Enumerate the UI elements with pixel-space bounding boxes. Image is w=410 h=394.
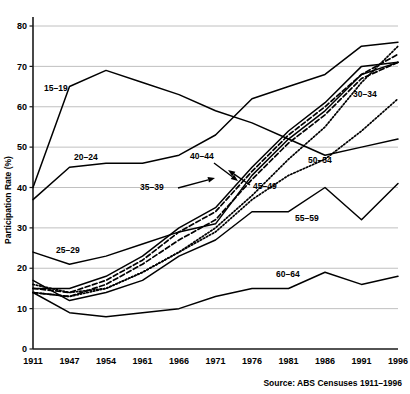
x-tick-label: 1986 bbox=[315, 356, 335, 366]
y-tick-label: 70 bbox=[17, 62, 27, 72]
x-tick-label: 1961 bbox=[132, 356, 152, 366]
series-line-50-54 bbox=[33, 99, 398, 297]
series-line-45-49 bbox=[33, 62, 398, 296]
y-tick-label: 10 bbox=[17, 304, 27, 314]
x-tick-label: 1996 bbox=[388, 356, 408, 366]
series-annotation-label: 30–34 bbox=[353, 89, 377, 99]
y-tick-label: 50 bbox=[17, 142, 27, 152]
series-annotation-label: 15–19 bbox=[44, 83, 68, 93]
series-line-35-39 bbox=[33, 54, 398, 292]
x-tick-label: 1911 bbox=[23, 356, 43, 366]
series-annotation-label: 35–39 bbox=[140, 182, 164, 192]
x-tick-labels-group: 1911194719541961196619711976198119861991… bbox=[23, 356, 408, 366]
y-tick-label: 0 bbox=[22, 344, 27, 354]
series-line-15-19 bbox=[33, 70, 398, 187]
y-tick-label: 60 bbox=[17, 102, 27, 112]
series-lines-group bbox=[33, 42, 398, 317]
source-note: Source: ABS Censuses 1911–1996 bbox=[263, 378, 402, 388]
y-tick-label: 40 bbox=[17, 183, 27, 193]
series-annotation-label: 40–44 bbox=[190, 151, 214, 161]
annotation-leader-line bbox=[178, 180, 208, 188]
y-tick-labels-group: 01020304050607080 bbox=[17, 21, 33, 354]
series-line-20-24 bbox=[33, 42, 398, 199]
series-annotation-label: 50–54 bbox=[308, 155, 332, 165]
x-tick-label: 1954 bbox=[96, 356, 116, 366]
chart-svg: 01020304050607080 1911194719541961196619… bbox=[0, 0, 410, 394]
series-annotation-label: 60–64 bbox=[276, 269, 300, 279]
series-annotation-label: 55–59 bbox=[295, 213, 319, 223]
series-annotation-label: 45–49 bbox=[253, 181, 277, 191]
x-tick-label: 1947 bbox=[59, 356, 79, 366]
series-annotation-label: 25–29 bbox=[56, 245, 80, 255]
series-annotation-label: 20–24 bbox=[74, 152, 98, 162]
series-line-60-64 bbox=[33, 272, 398, 316]
annotation-arrowhead bbox=[208, 177, 215, 182]
x-tick-label: 1981 bbox=[278, 356, 298, 366]
y-axis-title: Participation Rate (%) bbox=[3, 156, 13, 244]
annotation-leader-line bbox=[214, 163, 232, 177]
y-tick-label: 80 bbox=[17, 21, 27, 31]
y-tick-label: 20 bbox=[17, 263, 27, 273]
y-tick-label: 30 bbox=[17, 223, 27, 233]
x-tick-label: 1971 bbox=[205, 356, 225, 366]
gridlines-group bbox=[33, 26, 398, 309]
x-tick-label: 1966 bbox=[169, 356, 189, 366]
participation-rate-chart: 01020304050607080 1911194719541961196619… bbox=[0, 0, 410, 394]
x-tick-label: 1991 bbox=[351, 356, 371, 366]
series-line-30-34 bbox=[33, 46, 398, 292]
x-tick-label: 1976 bbox=[242, 356, 262, 366]
